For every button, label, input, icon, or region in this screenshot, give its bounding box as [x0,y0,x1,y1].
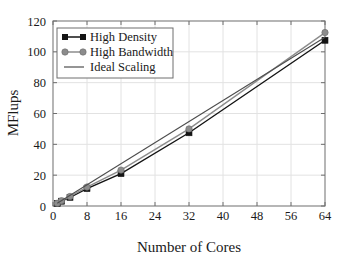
chart-legend: High DensityHigh BandwidthIdeal Scaling [57,28,174,78]
chart-figure: 0816243240485664 020406080100120 Number … [0,0,342,260]
x-tick-labels: 0816243240485664 [50,209,332,223]
x-axis-title: Number of Cores [137,239,241,255]
legend-marker [80,34,86,40]
y-tick-label: 40 [34,138,47,152]
y-tick-labels: 020406080100120 [27,15,46,214]
x-tick-label: 64 [319,209,332,223]
x-tick-label: 16 [115,209,128,223]
legend-marker [80,49,86,55]
legend-label: High Density [90,30,158,44]
y-axis-title: MFlups [5,89,21,136]
legend-marker [62,49,68,55]
x-tick-label: 40 [217,209,230,223]
x-tick-label: 32 [183,209,196,223]
x-tick-label: 8 [84,209,90,223]
x-tick-label: 48 [251,209,264,223]
y-tick-label: 0 [40,200,46,214]
x-tick-label: 24 [149,209,162,223]
legend-label: High Bandwidth [90,45,174,59]
y-tick-label: 80 [34,76,47,90]
y-tick-label: 20 [34,169,47,183]
scaling-line-chart: 0816243240485664 020406080100120 Number … [0,0,342,260]
y-tick-label: 100 [27,45,46,59]
y-tick-label: 60 [34,107,47,121]
data-point-marker [186,126,192,132]
legend-marker [62,34,68,40]
y-tick-label: 120 [27,15,46,29]
data-point-marker [322,29,328,35]
legend-label: Ideal Scaling [90,60,156,74]
data-point-marker [118,167,124,173]
x-tick-label: 0 [50,209,56,223]
x-tick-label: 56 [285,209,298,223]
